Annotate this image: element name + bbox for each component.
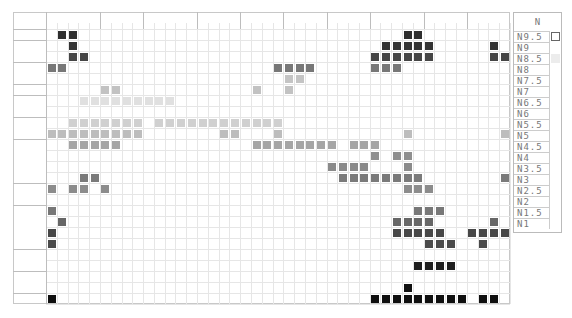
tone-cell [69,31,77,39]
tone-cell [360,174,368,182]
neutral-item-n2: N2 [514,196,549,207]
tone-cell [425,53,433,61]
hue-group-divider [283,12,284,29]
tone-cell [501,174,509,182]
tone-cell [91,130,99,138]
tone-cell [253,86,261,94]
tone-cell [155,97,163,105]
tone-cell [69,185,77,193]
neutral-item-n9: N9 [514,42,549,53]
grid-vline [240,23,241,304]
tone-cell [490,53,498,61]
tone-cell [296,141,304,149]
tone-cell [69,141,77,149]
tone-cell [339,163,347,171]
tone-cell [48,207,56,215]
grid-vline [467,23,468,304]
tone-cell [306,64,314,72]
tone-cell [404,174,412,182]
tone-cell [274,119,282,127]
neutral-item-n8: N8 [514,64,549,75]
grid-vline [78,23,79,304]
tone-cell [69,130,77,138]
tone-cell [263,119,271,127]
tone-cell [479,295,487,303]
tone-cell [404,53,412,61]
tone-cell [80,97,88,105]
tone-cell [436,295,444,303]
grid-hline [46,29,510,30]
tone-cell [69,119,77,127]
tone-cell [490,42,498,50]
tone-cell [253,119,261,127]
tone-cell [414,31,422,39]
tone-cell [414,185,422,193]
tone-cell [382,174,390,182]
tone-cell [425,218,433,226]
tone-cell [80,185,88,193]
tone-group-divider [13,183,46,184]
neutral-item-n3-5: N3.5 [514,163,549,174]
tone-cell [112,86,120,94]
tone-cell [371,174,379,182]
hue-group-divider [143,12,144,29]
grid-vline [143,23,144,304]
tone-cell [360,163,368,171]
tone-cell [414,174,422,182]
tone-cell [80,130,88,138]
munsell-tone-chart [13,12,510,304]
tone-cell [404,295,412,303]
tone-cell [123,97,131,105]
tone-cell [425,42,433,50]
tone-cell [101,141,109,149]
grid-vline [229,23,230,304]
grid-vline [154,23,155,304]
tone-cell [112,97,120,105]
tone-cell [371,141,379,149]
tone-group-divider [13,205,46,206]
grid-vline [186,23,187,304]
tone-cell [393,152,401,160]
tone-group-divider [13,84,46,85]
tone-cell [209,119,217,127]
tone-cell [123,130,131,138]
tone-cell [48,229,56,237]
grid-vline [111,23,112,304]
neutral-item-n1-5: N1.5 [514,207,549,218]
tone-cell [91,141,99,149]
tone-group-divider [13,95,46,96]
tone-cell [371,53,379,61]
tone-cell [242,119,250,127]
grid-hline [46,150,510,151]
tone-cell [360,141,368,149]
tone-cell [274,64,282,72]
grid-vline [478,23,479,304]
tone-cell [328,141,336,149]
grid-vline [132,23,133,304]
grid-vline [122,23,123,304]
tone-cell [48,240,56,248]
grid-hline [46,271,510,272]
label-column-divider [46,12,47,304]
neutral-item-n6: N6 [514,108,549,119]
grid-hline [46,216,510,217]
tone-cell [490,229,498,237]
tone-group-divider [13,40,46,41]
neutral-item-n2-5: N2.5 [514,185,549,196]
tone-cell [350,163,358,171]
neutral-swatch [551,32,560,41]
tone-cell [328,163,336,171]
hue-group-divider [467,12,468,29]
tone-cell [101,185,109,193]
tone-cell [285,64,293,72]
tone-cell [123,119,131,127]
tone-cell [414,207,422,215]
tone-cell [101,86,109,94]
tone-cell [48,64,56,72]
tone-cell [404,284,412,292]
tone-cell [468,229,476,237]
tone-cell [404,130,412,138]
tone-cell [155,119,163,127]
tone-cell [134,130,142,138]
tone-cell [479,229,487,237]
